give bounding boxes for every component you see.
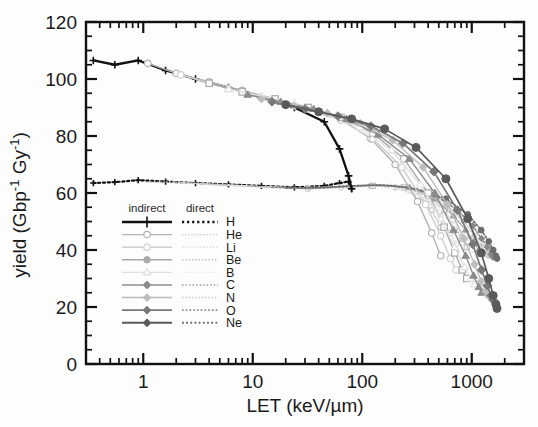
data-marker	[437, 253, 443, 259]
x-tick-label: 100	[346, 371, 378, 392]
data-marker	[478, 227, 484, 233]
y-tick-label: 0	[66, 354, 77, 375]
data-marker	[442, 175, 450, 183]
data-marker	[428, 230, 434, 236]
legend-header-direct: direct	[186, 202, 215, 214]
data-marker	[477, 249, 485, 257]
data-marker	[315, 108, 323, 116]
data-marker	[178, 72, 184, 78]
data-marker	[414, 198, 420, 204]
y-tick-label: 40	[56, 240, 77, 261]
data-marker	[282, 101, 290, 109]
data-marker	[145, 60, 151, 66]
y-axis-title-sup2: -1	[7, 139, 22, 151]
x-tick-label: 1	[138, 371, 149, 392]
data-marker	[437, 233, 443, 239]
y-axis-title-sup1: -1	[7, 180, 22, 192]
data-marker	[453, 267, 459, 273]
legend-label-Ne: Ne	[226, 316, 242, 330]
y-axis-title-mid: Gy	[9, 150, 30, 180]
y-tick-label: 100	[45, 69, 77, 90]
data-marker	[423, 201, 429, 207]
data-marker	[485, 275, 493, 283]
y-axis-title-main: yield (Gbp	[9, 191, 30, 278]
data-marker	[144, 231, 150, 237]
x-axis-title: LET (keV/µm)	[246, 395, 363, 416]
legend-header-indirect: indirect	[128, 202, 166, 214]
let-yield-chart: 1101001000020406080100120 indirectdirect…	[0, 0, 538, 427]
data-marker	[412, 143, 420, 151]
figure-panel: 1101001000020406080100120 indirectdirect…	[0, 0, 538, 427]
data-marker	[144, 257, 150, 263]
y-tick-label: 20	[56, 297, 77, 318]
y-tick-label: 60	[56, 183, 77, 204]
y-axis-title: yield (Gbp-1 Gy-1)	[7, 132, 31, 278]
data-marker	[381, 125, 389, 133]
data-marker	[493, 304, 501, 312]
data-marker	[489, 292, 497, 300]
y-axis-title-end: )	[9, 132, 30, 138]
x-tick-label: 1000	[451, 371, 493, 392]
data-marker	[144, 244, 150, 250]
data-marker	[206, 80, 212, 86]
data-marker	[490, 247, 496, 253]
y-tick-label: 120	[45, 12, 77, 33]
y-tick-label: 80	[56, 126, 77, 147]
data-marker	[348, 115, 356, 123]
data-marker	[494, 256, 500, 262]
data-marker	[486, 239, 492, 245]
x-tick-label: 10	[242, 371, 263, 392]
data-marker	[464, 215, 472, 223]
